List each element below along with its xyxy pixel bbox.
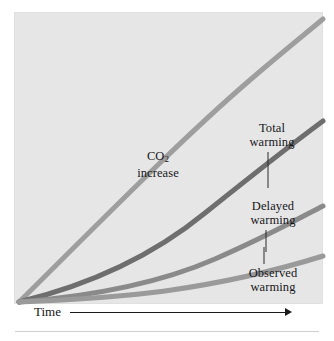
x-axis-label: Time	[34, 305, 61, 319]
annotation-observed-warming: Observed warming	[236, 267, 310, 294]
annotation-delayed-warming: Delayed warming	[238, 200, 308, 227]
annotation-co2-subscript: 2	[164, 154, 169, 164]
annotation-total-warming: Total warming	[240, 122, 304, 149]
annotation-total-warming-line2: warming	[249, 135, 294, 149]
climate-warming-figure: CO2 increase Total warming Delayed warmi…	[0, 0, 334, 341]
arrow-shaft	[70, 312, 286, 313]
bottom-divider	[15, 331, 319, 332]
annotation-co2-increase: CO2 increase	[128, 150, 188, 180]
arrow-right-icon	[70, 308, 292, 317]
annotation-co2-increase-line2: increase	[137, 166, 179, 180]
annotation-delayed-warming-line1: Delayed	[252, 199, 294, 213]
x-axis: Time	[34, 302, 294, 322]
annotation-observed-warming-line2: warming	[250, 280, 295, 294]
annotation-delayed-warming-line2: warming	[250, 213, 295, 227]
annotation-observed-warming-line1: Observed	[249, 266, 298, 280]
annotation-co2-increase-line1: CO	[147, 149, 165, 163]
arrow-head	[285, 308, 292, 316]
annotation-total-warming-line1: Total	[259, 121, 285, 135]
